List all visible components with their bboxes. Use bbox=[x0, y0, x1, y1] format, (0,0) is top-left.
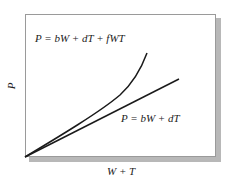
line-equation-label: P = bW + dT bbox=[121, 112, 180, 124]
y-axis-label: P bbox=[5, 83, 17, 90]
curve-equation-label: P = bW + dT + fWT bbox=[35, 32, 125, 44]
x-axis-label: W + T bbox=[107, 165, 135, 177]
plot-area bbox=[0, 0, 231, 184]
